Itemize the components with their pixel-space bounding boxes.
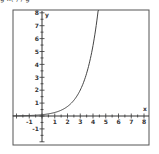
y-tick-label: 1 [35,99,39,106]
y-tick-label: 5 [35,48,39,55]
x-tick-label: 4 [91,118,95,125]
y-tick-label: -1 [32,125,39,132]
x-tick-label: 5 [104,118,108,125]
x-tick-label: 2 [65,118,69,125]
y-tick-label: 4 [35,61,39,68]
exponential-graph: -112345678 87654321-1 x y [0,0,159,154]
x-tick-label: 3 [78,118,82,125]
x-tick-label: 8 [142,118,146,125]
y-tick-labels: 87654321-1 [32,9,39,132]
y-tick-label: 3 [35,74,39,81]
y-tick-label: 2 [35,86,39,93]
y-axis-label: y [45,11,49,19]
exponential-curve [13,10,99,116]
x-tick-label: 1 [53,118,57,125]
y-ticks [40,13,45,142]
x-tick-labels: -112345678 [26,118,146,125]
x-tick-label: 6 [116,118,120,125]
x-tick-label: 7 [129,118,133,125]
y-tick-label: 6 [35,35,39,42]
y-tick-label: 8 [35,9,39,16]
x-axis-label: x [143,105,147,112]
x-tick-label: -1 [26,118,33,125]
y-tick-label: 7 [35,22,39,29]
